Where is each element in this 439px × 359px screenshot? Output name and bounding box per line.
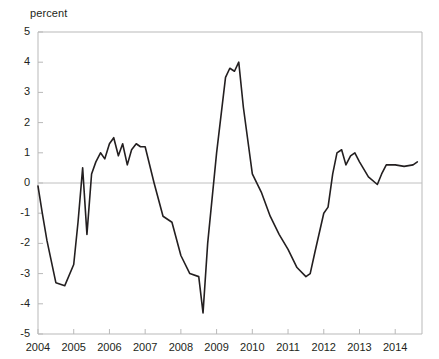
x-tick-label: 2005 bbox=[54, 342, 94, 353]
x-tick-label: 2007 bbox=[125, 342, 165, 353]
x-tick-label: 2013 bbox=[339, 342, 379, 353]
x-tick-label: 2008 bbox=[161, 342, 201, 353]
data-series-line bbox=[38, 62, 417, 313]
x-tick-label: 2006 bbox=[89, 342, 129, 353]
y-tick-label: 2 bbox=[8, 117, 30, 128]
y-tick-label: -2 bbox=[8, 237, 30, 248]
x-tick-label: 2011 bbox=[268, 342, 308, 353]
y-tick-label: 4 bbox=[8, 56, 30, 67]
y-tick-label: 5 bbox=[8, 26, 30, 37]
y-tick-label: 1 bbox=[8, 147, 30, 158]
chart-container: percent 543210-1-2-3-4-5 200420052006200… bbox=[0, 0, 439, 359]
chart-plot-svg bbox=[0, 0, 439, 359]
y-tick-label: 3 bbox=[8, 86, 30, 97]
x-tick-label: 2012 bbox=[304, 342, 344, 353]
y-tick-label: -3 bbox=[8, 268, 30, 279]
x-tick-label: 2010 bbox=[232, 342, 272, 353]
x-tick-label: 2009 bbox=[197, 342, 237, 353]
y-tick-label: -1 bbox=[8, 207, 30, 218]
x-tick-label: 2014 bbox=[375, 342, 415, 353]
y-tick-label: -5 bbox=[8, 328, 30, 339]
y-tick-label: -4 bbox=[8, 298, 30, 309]
x-tick-label: 2004 bbox=[18, 342, 58, 353]
y-tick-label: 0 bbox=[8, 177, 30, 188]
